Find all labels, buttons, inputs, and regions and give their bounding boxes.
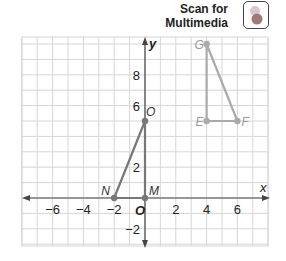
svg-text:y: y — [148, 36, 157, 51]
grid-lines — [22, 37, 268, 246]
svg-text:2: 2 — [172, 202, 179, 217]
svg-text:−6: −6 — [45, 202, 60, 217]
svg-text:4: 4 — [203, 202, 210, 217]
triangles — [111, 41, 241, 201]
labels: −6−4−2246862−2OxyNMOGEF — [45, 36, 267, 237]
svg-text:F: F — [241, 115, 249, 129]
svg-text:6: 6 — [234, 202, 241, 217]
svg-text:8: 8 — [133, 68, 140, 83]
svg-text:O: O — [135, 203, 145, 218]
svg-text:−2: −2 — [125, 222, 140, 237]
svg-text:x: x — [259, 180, 267, 195]
svg-text:6: 6 — [133, 99, 140, 114]
scan-line-1: Scan for — [165, 2, 228, 16]
bp-logo-icon — [244, 2, 268, 28]
svg-text:2: 2 — [133, 160, 140, 175]
svg-text:−4: −4 — [76, 202, 91, 217]
multimedia-qr-icon[interactable] — [243, 1, 269, 29]
scan-line-2: Multimedia — [165, 16, 228, 30]
svg-text:−2: −2 — [107, 202, 122, 217]
svg-text:O: O — [146, 105, 155, 119]
svg-text:M: M — [149, 184, 159, 198]
scan-for-multimedia: Scan for Multimedia — [165, 2, 228, 30]
svg-text:N: N — [101, 184, 110, 198]
svg-text:G: G — [195, 38, 204, 52]
coordinate-graph: −6−4−2246862−2OxyNMOGEF — [0, 0, 286, 261]
axes — [22, 37, 270, 248]
svg-text:E: E — [196, 115, 205, 129]
